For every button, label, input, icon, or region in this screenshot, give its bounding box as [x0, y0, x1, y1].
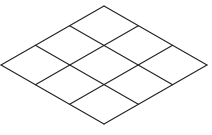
- grid-line-col: [70, 45, 173, 104]
- grid-line-row: [70, 26, 173, 85]
- isometric-grid-diagram: [0, 0, 212, 135]
- grid-line-col: [1, 6, 104, 65]
- grid-line-row: [35, 45, 138, 104]
- grid-line-row: [104, 6, 207, 65]
- grid-line-row: [1, 65, 104, 124]
- grid-line-col: [35, 26, 138, 85]
- grid-line-col: [104, 65, 207, 124]
